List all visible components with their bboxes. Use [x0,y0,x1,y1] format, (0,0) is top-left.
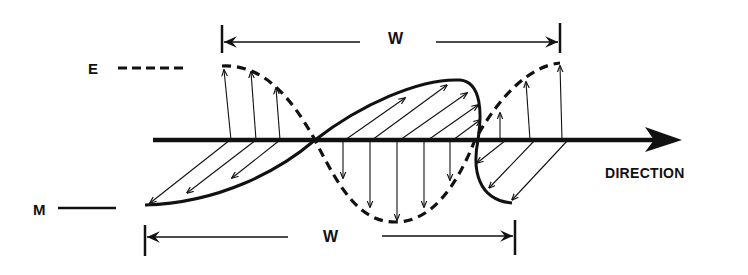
e-field-vectors [224,66,562,220]
direction-label: DIRECTION [605,166,685,180]
wavelength-label-bottom: W [323,229,339,245]
e-wave-curve [222,63,560,222]
electric-field-label: E [88,61,99,76]
m-field-vectors [150,85,568,203]
wavelength-label-top: W [388,31,404,47]
magnetic-field-label: M [33,202,46,217]
m-wave-curve [145,80,512,205]
wave-diagram [0,0,748,275]
